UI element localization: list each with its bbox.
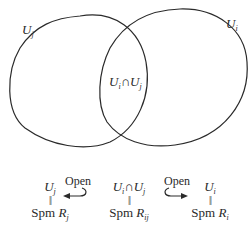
open-immersion-arrow-right (163, 186, 189, 200)
affine-intersection: Ui∩Uj || Spm Rij (104, 180, 154, 222)
set-u-j-label: Uj (22, 23, 34, 39)
set-u-i-label: Ui (226, 17, 238, 33)
intersection-label: Ui∩Uj (109, 75, 142, 91)
open-immersion-arrow-left (62, 186, 88, 200)
affine-u-i: Ui || Spm Ri (190, 180, 230, 222)
